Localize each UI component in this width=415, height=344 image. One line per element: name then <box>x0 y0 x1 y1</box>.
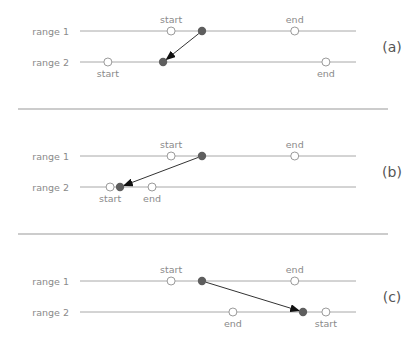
range-1-end-marker <box>291 277 299 285</box>
range-1-point <box>198 27 206 35</box>
range-2-end-label: end <box>317 68 335 79</box>
range-1-start-label: start <box>160 139 182 150</box>
range-2-label: range 2 <box>32 57 69 68</box>
range-mapping-diagram: range 1range 2startendstartend(a)range 1… <box>0 0 415 344</box>
range-1-start-label: start <box>160 264 182 275</box>
range-1-label: range 1 <box>32 151 69 162</box>
range-2-point <box>159 58 167 66</box>
range-2-end-label: end <box>224 318 242 329</box>
panel-c: range 1range 2startendstartend(c) <box>32 264 401 329</box>
range-2-point <box>299 308 307 316</box>
range-2-label: range 2 <box>32 307 69 318</box>
range-2-end-marker <box>322 58 330 66</box>
range-1-start-marker <box>167 27 175 35</box>
mapping-arrow <box>124 157 198 185</box>
range-1-label: range 1 <box>32 26 69 37</box>
panel-a: range 1range 2startendstartend(a) <box>32 14 401 79</box>
range-1-end-marker <box>291 152 299 160</box>
range-2-start-label: start <box>97 68 119 79</box>
range-1-start-marker <box>167 277 175 285</box>
range-2-point <box>116 183 124 191</box>
panel-b: range 1range 2startendstartend(b) <box>32 139 402 204</box>
range-1-end-label: end <box>286 139 304 150</box>
mapping-arrow <box>206 282 299 311</box>
range-1-end-label: end <box>286 264 304 275</box>
panel-tag: (c) <box>383 289 402 305</box>
panel-tag: (a) <box>382 39 402 55</box>
panel-tag: (b) <box>382 164 402 180</box>
range-1-start-marker <box>167 152 175 160</box>
range-2-start-label: start <box>99 193 121 204</box>
range-1-point <box>198 152 206 160</box>
range-1-start-label: start <box>160 14 182 25</box>
range-1-point <box>198 277 206 285</box>
range-1-label: range 1 <box>32 276 69 287</box>
range-2-end-marker <box>229 308 237 316</box>
range-2-start-marker <box>322 308 330 316</box>
range-2-start-marker <box>106 183 114 191</box>
range-1-end-marker <box>291 27 299 35</box>
mapping-arrow <box>166 33 199 59</box>
range-2-end-label: end <box>143 193 161 204</box>
range-2-label: range 2 <box>32 182 69 193</box>
range-2-start-label: start <box>315 318 337 329</box>
range-2-start-marker <box>104 58 112 66</box>
range-1-end-label: end <box>286 14 304 25</box>
range-2-end-marker <box>148 183 156 191</box>
